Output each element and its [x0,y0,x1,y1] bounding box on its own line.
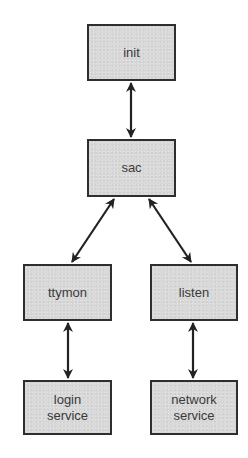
node-sac: sac [87,139,176,197]
node-init: init [87,24,176,81]
node-listen: listen [150,264,238,321]
node-label-network-service: network service [171,392,217,424]
node-label-init: init [123,45,140,61]
arrow-sac-ttymon [72,199,114,262]
arrow-sac-listen [149,199,191,262]
node-label-ttymon: ttymon [48,285,87,301]
process-diagram: init sac ttymon listen login service net… [0,0,248,458]
node-label-sac: sac [121,160,141,176]
node-label-listen: listen [179,285,209,301]
node-ttymon: ttymon [23,264,112,321]
node-login-service: login service [23,380,112,435]
node-label-login-service: login service [47,392,88,424]
node-network-service: network service [150,380,238,435]
